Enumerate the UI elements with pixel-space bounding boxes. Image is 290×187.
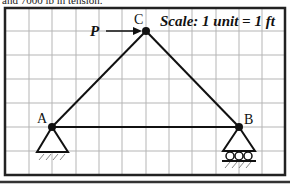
load-arrow-p [106,27,142,35]
ground-hatch-icon [225,162,251,168]
load-label-p: P [90,23,100,39]
node-a [48,123,56,131]
truss-diagram: P C A B Scale: 1 unit = 1 ft [0,0,290,187]
node-label-c: C [134,12,143,27]
node-b [235,123,243,131]
node-label-b: B [244,112,253,127]
arrowhead-icon [133,27,142,35]
scale-label: Scale: 1 unit = 1 ft [160,13,276,29]
roller-support-b [222,127,256,168]
node-c [142,27,150,35]
node-label-a: A [37,111,48,126]
